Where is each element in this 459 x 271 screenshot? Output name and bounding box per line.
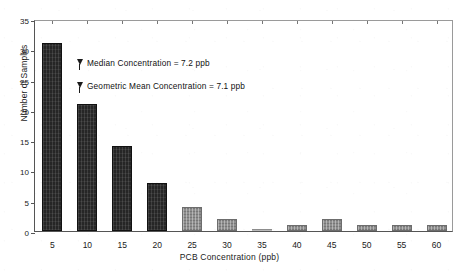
x-tick-mark: [122, 21, 123, 24]
x-tick-mark: [402, 21, 403, 24]
bar-25: [182, 207, 202, 231]
x-axis-title: PCB Concentration (ppb): [0, 252, 459, 262]
bar-55: [392, 225, 412, 231]
y-tick-mark: [31, 172, 35, 173]
y-tick-mark: [31, 233, 35, 234]
bar-45: [322, 219, 342, 231]
x-tick-mark: [297, 21, 298, 24]
annotation-median-label: Median Concentration = 7.2 ppb: [87, 58, 210, 68]
x-tick-mark: [157, 21, 158, 24]
y-tick-label: 10: [5, 168, 29, 177]
annotation-geometric-mean-label: Geometric Mean Concentration = 7.1 ppb: [87, 81, 245, 91]
y-tick-label: 35: [5, 17, 29, 26]
x-tick-mark: [52, 21, 53, 24]
x-tick-mark: [437, 21, 438, 24]
bar-5: [42, 43, 62, 231]
histogram-figure: Number of Samples PCB Concentration (ppb…: [0, 0, 459, 271]
bar-10: [77, 104, 97, 231]
plot-area: 05101520253035 51015202530354045505560 M…: [34, 20, 453, 232]
bar-40: [287, 225, 307, 231]
bar-60: [427, 225, 447, 231]
annotation-median: Median Concentration = 7.2 ppb: [77, 58, 210, 70]
down-pin-icon: [77, 59, 83, 70]
y-tick-mark: [31, 112, 35, 113]
y-tick-label: 25: [5, 77, 29, 86]
y-tick-label: 15: [5, 138, 29, 147]
down-pin-icon: [77, 82, 83, 93]
y-tick-label: 20: [5, 107, 29, 116]
y-tick-label: 30: [5, 47, 29, 56]
y-tick-mark: [31, 21, 35, 22]
y-tick-mark: [31, 203, 35, 204]
y-tick-mark: [31, 82, 35, 83]
y-tick-label: 5: [5, 198, 29, 207]
annotation-geometric-mean: Geometric Mean Concentration = 7.1 ppb: [77, 81, 245, 93]
x-tick-label: 60: [417, 240, 457, 250]
bar-50: [357, 225, 377, 231]
x-tick-mark: [367, 21, 368, 24]
bar-15: [112, 146, 132, 231]
y-tick-label: 0: [5, 229, 29, 238]
x-tick-mark: [192, 21, 193, 24]
bar-35: [252, 229, 272, 232]
x-tick-mark: [87, 21, 88, 24]
bar-20: [147, 183, 167, 231]
bar-30: [217, 219, 237, 231]
x-tick-mark: [227, 21, 228, 24]
x-tick-mark: [332, 21, 333, 24]
x-tick-mark: [262, 21, 263, 24]
y-tick-mark: [31, 142, 35, 143]
y-tick-mark: [31, 51, 35, 52]
